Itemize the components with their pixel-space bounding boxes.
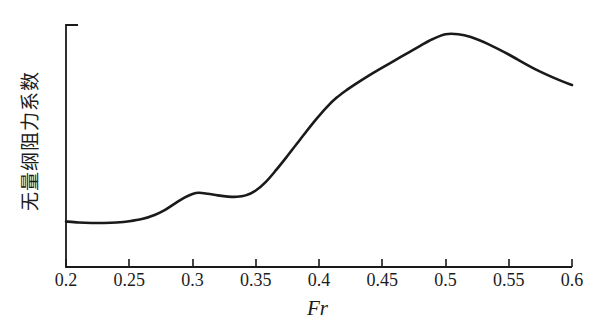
x-tick-label: 0.4 (308, 270, 331, 291)
axis-frame (66, 25, 572, 267)
data-series-line (66, 34, 572, 223)
x-tick-label: 0.2 (55, 270, 78, 291)
x-tick-label: 0.45 (367, 270, 399, 291)
x-tick-label: 0.6 (561, 270, 584, 291)
x-tick-label: 0.55 (493, 270, 525, 291)
x-tick-label: 0.3 (181, 270, 204, 291)
x-tick-label: 0.25 (114, 270, 146, 291)
chart-figure: 无量纲阻力系数 Fr 0.20.250.30.350.40.450.50.550… (0, 0, 603, 333)
x-tick-label: 0.5 (434, 270, 457, 291)
x-tick-label: 0.35 (240, 270, 272, 291)
x-axis-ticks (66, 259, 572, 267)
